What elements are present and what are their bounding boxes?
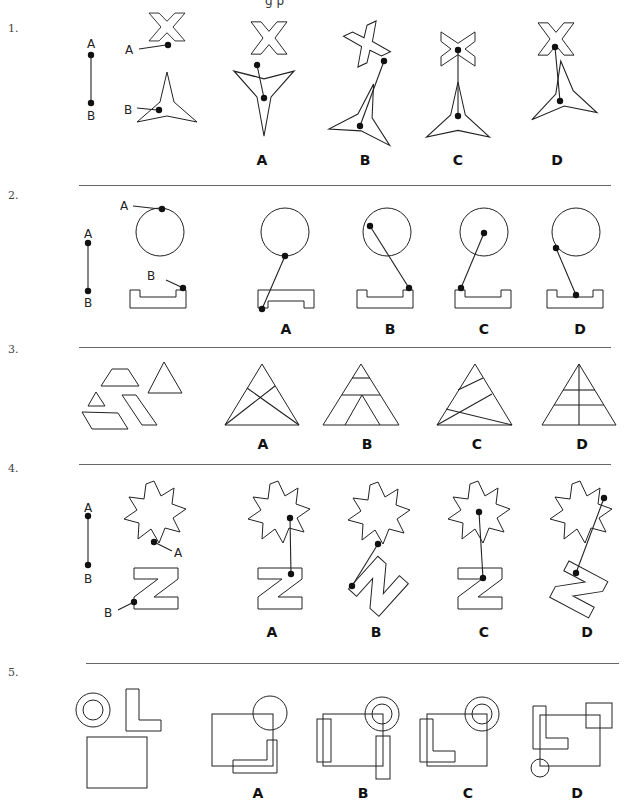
q3-option-d-figure [542, 364, 616, 425]
q2-option-a-figure [258, 208, 314, 312]
q2-reference: A B A B [84, 199, 186, 310]
q4-reference: A B A B [84, 481, 186, 620]
svg-text:A: A [174, 546, 183, 560]
q3-option-b-figure [323, 364, 399, 425]
svg-text:B: B [124, 103, 132, 117]
svg-text:B: B [84, 296, 92, 310]
q5-option-c-figure [420, 697, 499, 766]
puzzle-figures: A B A B [0, 0, 625, 804]
q4-option-b-figure [348, 482, 410, 616]
q1-option-b-figure [329, 21, 404, 145]
svg-text:B: B [87, 109, 95, 123]
svg-text:B: B [104, 606, 112, 620]
q2-option-d-figure [547, 208, 603, 308]
q4-option-a-figure [248, 481, 310, 609]
svg-text:B: B [84, 572, 92, 586]
svg-text:A: A [125, 43, 134, 57]
svg-text:A: A [84, 227, 93, 241]
q5-reference [76, 689, 161, 788]
q1-option-d-figure [514, 23, 597, 146]
q5-option-a-figure [212, 696, 287, 773]
svg-text:A: A [120, 199, 129, 213]
q1-reference: A B A B [87, 13, 197, 123]
q5-option-b-figure [317, 697, 399, 779]
q3-reference [82, 362, 182, 429]
q1-seg-label-a: A [87, 37, 96, 51]
q1-option-a-figure [234, 22, 294, 136]
q2-option-c-figure [455, 208, 511, 308]
q1-option-c-figure [427, 32, 490, 137]
q2-option-b-figure [357, 208, 413, 308]
q3-option-a-figure [225, 364, 299, 425]
q5-option-d-figure [531, 703, 612, 777]
q4-option-d-figure [550, 481, 612, 618]
q4-option-c-figure [448, 481, 510, 609]
q3-option-c-figure [437, 364, 512, 425]
svg-text:B: B [147, 269, 155, 283]
